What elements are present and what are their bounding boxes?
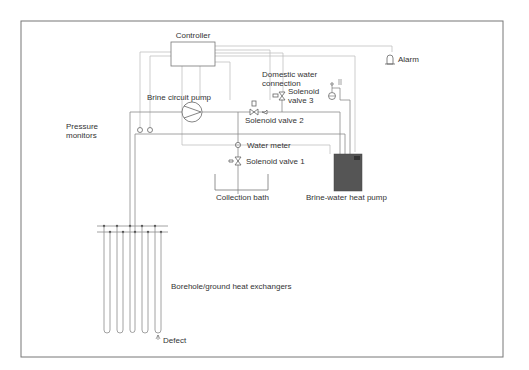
alarm-label: Alarm [398, 55, 419, 64]
pressure-monitors-label-2: monitors [66, 131, 97, 140]
borehole-heat-exchangers [104, 226, 161, 333]
solenoid-valve-3-icon [273, 92, 285, 100]
pressure-monitors-label-1: Pressure [66, 122, 99, 131]
brine-pipes [130, 88, 350, 232]
water-meter-icon [235, 142, 240, 147]
alarm-icon [385, 55, 395, 64]
defect-label: Defect [163, 336, 187, 345]
defect-icon [156, 335, 160, 340]
solenoid-valve-3-label-2: valve 3 [288, 96, 314, 105]
heat-pump-label: Brine-water heat pump [306, 193, 387, 202]
boreholes-label: Borehole/ground heat exchangers [171, 282, 292, 291]
brine-pump-icon [182, 102, 202, 122]
collection-bath [215, 174, 268, 190]
pressure-monitor-icon [138, 128, 153, 133]
controller-box [171, 42, 215, 66]
solenoid-valve-2-icon [250, 101, 267, 115]
brine-pump-label: Brine circuit pump [147, 93, 212, 102]
heat-pump-display [354, 156, 360, 160]
borehole-manifold [97, 225, 168, 233]
collection-bath-label: Collection bath [216, 193, 269, 202]
water-meter-label: Water meter [247, 141, 291, 150]
solenoid-valve-1-icon [229, 157, 241, 165]
controller-label: Controller [176, 31, 211, 40]
schematic-diagram: Controller Alarm Domestic water connecti… [0, 0, 529, 370]
solenoid-valve-1-label: Solenoid valve 1 [246, 157, 305, 166]
solenoid-valve-2-label: Solenoid valve 2 [245, 116, 304, 125]
domestic-water-label-1: Domestic water [262, 70, 317, 79]
solenoid-valve-3-label-1: Solenoid [288, 87, 319, 96]
